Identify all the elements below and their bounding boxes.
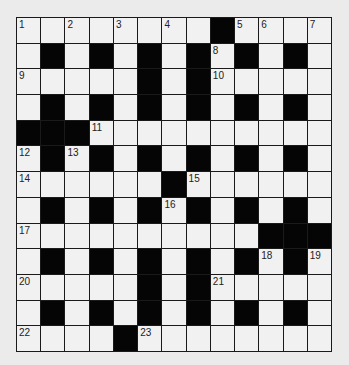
crossword-cell[interactable]	[162, 121, 185, 146]
crossword-cell[interactable]	[17, 249, 40, 274]
crossword-cell[interactable]	[162, 44, 185, 69]
crossword-cell[interactable]	[90, 18, 113, 43]
crossword-cell[interactable]	[114, 275, 137, 300]
crossword-cell[interactable]	[114, 301, 137, 326]
crossword-cell[interactable]	[162, 95, 185, 120]
crossword-cell[interactable]	[162, 69, 185, 94]
crossword-cell[interactable]	[259, 121, 282, 146]
crossword-cell[interactable]	[138, 224, 161, 249]
crossword-cell[interactable]	[65, 301, 88, 326]
crossword-cell[interactable]	[308, 69, 331, 94]
crossword-cell[interactable]	[187, 121, 210, 146]
crossword-cell[interactable]	[211, 121, 234, 146]
crossword-cell[interactable]	[235, 69, 258, 94]
crossword-cell[interactable]	[284, 18, 307, 43]
crossword-cell[interactable]: 23	[138, 326, 161, 351]
crossword-cell[interactable]	[41, 275, 64, 300]
crossword-cell[interactable]	[211, 249, 234, 274]
crossword-cell[interactable]	[284, 275, 307, 300]
crossword-cell[interactable]	[308, 121, 331, 146]
crossword-cell[interactable]: 17	[17, 224, 40, 249]
crossword-cell[interactable]	[41, 224, 64, 249]
crossword-cell[interactable]	[114, 146, 137, 171]
crossword-cell[interactable]	[211, 146, 234, 171]
crossword-cell[interactable]	[211, 95, 234, 120]
crossword-cell[interactable]	[211, 326, 234, 351]
crossword-cell[interactable]: 22	[17, 326, 40, 351]
crossword-cell[interactable]	[211, 301, 234, 326]
crossword-cell[interactable]	[259, 95, 282, 120]
crossword-cell[interactable]	[90, 326, 113, 351]
crossword-cell[interactable]	[90, 224, 113, 249]
crossword-cell[interactable]	[211, 198, 234, 223]
crossword-cell[interactable]	[308, 44, 331, 69]
crossword-cell[interactable]	[162, 146, 185, 171]
crossword-cell[interactable]	[211, 224, 234, 249]
crossword-cell[interactable]: 5	[235, 18, 258, 43]
crossword-cell[interactable]: 14	[17, 172, 40, 197]
crossword-cell[interactable]	[187, 224, 210, 249]
crossword-cell[interactable]	[308, 172, 331, 197]
crossword-cell[interactable]	[235, 172, 258, 197]
crossword-cell[interactable]	[114, 224, 137, 249]
crossword-cell[interactable]	[211, 172, 234, 197]
crossword-cell[interactable]	[65, 198, 88, 223]
crossword-cell[interactable]	[162, 224, 185, 249]
crossword-cell[interactable]	[308, 326, 331, 351]
crossword-cell[interactable]	[138, 121, 161, 146]
crossword-cell[interactable]	[17, 198, 40, 223]
crossword-cell[interactable]	[259, 198, 282, 223]
crossword-cell[interactable]	[114, 69, 137, 94]
crossword-cell[interactable]	[138, 172, 161, 197]
crossword-cell[interactable]	[235, 326, 258, 351]
crossword-cell[interactable]: 8	[211, 44, 234, 69]
crossword-cell[interactable]	[235, 121, 258, 146]
crossword-cell[interactable]	[308, 301, 331, 326]
crossword-cell[interactable]	[90, 275, 113, 300]
crossword-cell[interactable]	[114, 44, 137, 69]
crossword-cell[interactable]	[284, 69, 307, 94]
crossword-cell[interactable]	[308, 146, 331, 171]
crossword-cell[interactable]: 3	[114, 18, 137, 43]
crossword-cell[interactable]	[259, 275, 282, 300]
crossword-cell[interactable]	[284, 172, 307, 197]
crossword-cell[interactable]	[308, 275, 331, 300]
crossword-cell[interactable]	[65, 44, 88, 69]
crossword-cell[interactable]: 16	[162, 198, 185, 223]
crossword-cell[interactable]: 18	[259, 249, 282, 274]
crossword-cell[interactable]: 12	[17, 146, 40, 171]
crossword-cell[interactable]	[114, 95, 137, 120]
crossword-cell[interactable]	[235, 224, 258, 249]
crossword-cell[interactable]	[162, 275, 185, 300]
crossword-cell[interactable]: 9	[17, 69, 40, 94]
crossword-cell[interactable]	[308, 198, 331, 223]
crossword-cell[interactable]	[259, 172, 282, 197]
crossword-cell[interactable]	[65, 224, 88, 249]
crossword-cell[interactable]: 1	[17, 18, 40, 43]
crossword-cell[interactable]	[41, 326, 64, 351]
crossword-cell[interactable]: 2	[65, 18, 88, 43]
crossword-cell[interactable]: 13	[65, 146, 88, 171]
crossword-cell[interactable]	[259, 69, 282, 94]
crossword-cell[interactable]: 19	[308, 249, 331, 274]
crossword-cell[interactable]	[90, 69, 113, 94]
crossword-cell[interactable]	[259, 44, 282, 69]
crossword-cell[interactable]	[17, 95, 40, 120]
crossword-cell[interactable]	[187, 326, 210, 351]
crossword-cell[interactable]	[65, 326, 88, 351]
crossword-cell[interactable]	[259, 146, 282, 171]
crossword-cell[interactable]	[138, 18, 161, 43]
crossword-cell[interactable]: 6	[259, 18, 282, 43]
crossword-cell[interactable]	[114, 249, 137, 274]
crossword-cell[interactable]	[41, 69, 64, 94]
crossword-cell[interactable]: 7	[308, 18, 331, 43]
crossword-cell[interactable]	[162, 249, 185, 274]
crossword-cell[interactable]: 11	[90, 121, 113, 146]
crossword-cell[interactable]: 20	[17, 275, 40, 300]
crossword-cell[interactable]	[308, 95, 331, 120]
crossword-cell[interactable]	[235, 275, 258, 300]
crossword-cell[interactable]: 10	[211, 69, 234, 94]
crossword-cell[interactable]	[259, 326, 282, 351]
crossword-cell[interactable]	[65, 249, 88, 274]
crossword-cell[interactable]	[162, 326, 185, 351]
